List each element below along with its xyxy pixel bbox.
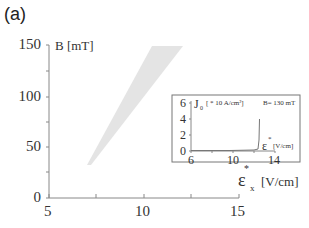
inset-y-label: J [194, 97, 199, 112]
inset-x-tick-6: 6 [188, 153, 194, 168]
x-tick-10: 10 [135, 203, 150, 220]
inset-x-label: ε [262, 139, 267, 154]
inset-y-unit: [ * 10 A/cm²] [206, 99, 244, 107]
inset-y-tick-4: 4 [180, 112, 186, 127]
inset-x-label-sup: * [268, 135, 272, 143]
inset-x-unit: [V/cm] [273, 142, 293, 150]
chart-canvas [0, 0, 309, 228]
x-tick-5: 5 [44, 203, 52, 220]
x-ticks [49, 194, 239, 198]
y-tick-0: 0 [5, 189, 41, 206]
y-tick-150: 150 [5, 36, 41, 53]
x-axis-label-sub: x [250, 183, 255, 193]
inset-x-tick-14: 14 [268, 153, 280, 168]
shaded-band [87, 46, 183, 165]
inset-y-tick-2: 2 [180, 128, 186, 143]
inset-annotation: B= 130 mT [263, 99, 295, 107]
inset-y-tick-6: 6 [180, 96, 186, 111]
y-tick-50: 50 [5, 138, 41, 155]
x-tick-15: 15 [230, 203, 245, 220]
x-axis-label-unit: [V/cm] [261, 174, 299, 190]
inset-x-tick-10: 10 [227, 153, 239, 168]
inset-y-label-sub: 0 [200, 105, 203, 111]
y-tick-100: 100 [5, 88, 41, 105]
y-axis-label: B [mT] [55, 38, 94, 54]
inset-y-tick-0: 0 [180, 144, 186, 159]
x-axis-label-sup: * [244, 163, 249, 174]
